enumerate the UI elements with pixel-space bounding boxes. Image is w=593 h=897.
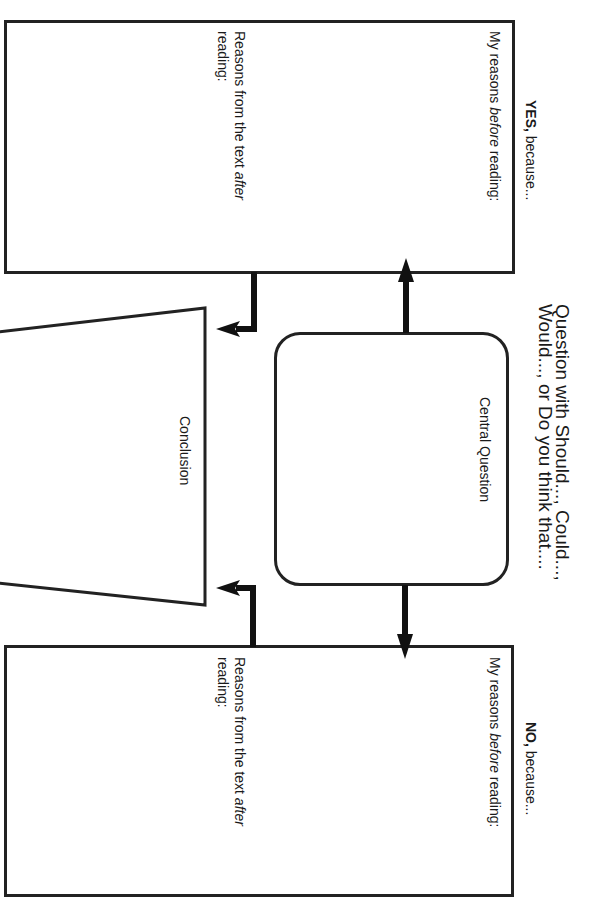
conclusion-box[interactable] — [0, 308, 205, 605]
arrow-yes-to-conclusion-icon — [216, 272, 254, 337]
arrow-to-yes-icon — [398, 258, 414, 333]
conclusion-label: Conclusion — [178, 416, 192, 485]
arrow-to-no-icon — [397, 585, 413, 659]
arrow-no-to-conclusion-icon — [216, 580, 253, 647]
